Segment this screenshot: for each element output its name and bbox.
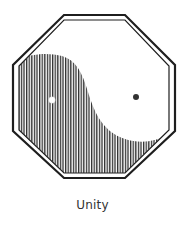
unity-octagon-figure: [0, 0, 185, 190]
figure-caption: Unity: [0, 198, 185, 212]
light-dot: [49, 97, 55, 103]
dark-dot: [133, 94, 139, 100]
